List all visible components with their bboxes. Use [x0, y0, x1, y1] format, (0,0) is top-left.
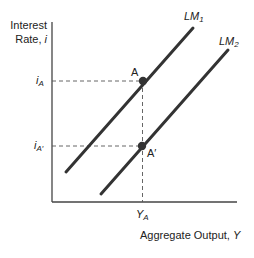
lm2-label: LM2	[219, 35, 239, 51]
point-a-label: A	[131, 66, 138, 78]
y-axis-var: i	[45, 33, 47, 45]
y-axis-label-line1: Interest	[2, 18, 47, 32]
x-axis-label: Aggregate Output, Y	[140, 229, 240, 241]
lm1-curve	[66, 28, 193, 172]
y-axis-label-line2: Rate, i	[2, 32, 47, 46]
lm2-curve	[101, 50, 228, 194]
x-axis-var: Y	[233, 229, 240, 241]
y-axis-label: Interest Rate, i	[2, 18, 47, 46]
point-a-prime-label: A′	[147, 147, 156, 159]
lm1-label: LM1	[184, 10, 204, 26]
point-a-prime	[138, 142, 146, 150]
point-a	[139, 77, 147, 85]
tick-label-ya: YA	[136, 208, 149, 224]
tick-label-ia: iA	[36, 74, 44, 90]
tick-label-ia-prime: iA′	[34, 139, 43, 155]
